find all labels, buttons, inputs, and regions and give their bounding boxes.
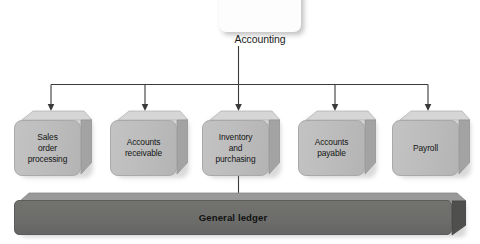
node-label: Inventory and purchasing [214, 132, 258, 165]
node-inventory-and-purchasing: Inventory and purchasing [202, 110, 280, 176]
node-payroll: Payroll [392, 110, 470, 176]
accounting-modules-diagram: Accounting Sales order processing Accoun… [0, 0, 480, 244]
box-front-face: Accounts receivable [110, 120, 177, 176]
node-accounts-payable: Accounts payable [298, 110, 376, 176]
node-accounting-label: Accounting [196, 33, 324, 45]
box-front-face: Accounts payable [298, 120, 365, 176]
box-front-face: Inventory and purchasing [202, 120, 269, 176]
node-label: Payroll [411, 143, 440, 154]
node-label: Accounts receivable [123, 137, 164, 159]
box-front-face: Sales order processing [14, 120, 81, 176]
node-accounting [219, 0, 301, 32]
bar-front-face: General ledger [14, 200, 452, 235]
node-label: Accounts payable [313, 137, 351, 159]
node-sales-order-processing: Sales order processing [14, 110, 92, 176]
general-ledger-label: General ledger [199, 212, 268, 223]
box-front-face: Payroll [392, 120, 459, 176]
node-general-ledger: General ledger [14, 192, 466, 238]
node-label: Sales order processing [26, 132, 70, 165]
node-accounts-receivable: Accounts receivable [110, 110, 188, 176]
